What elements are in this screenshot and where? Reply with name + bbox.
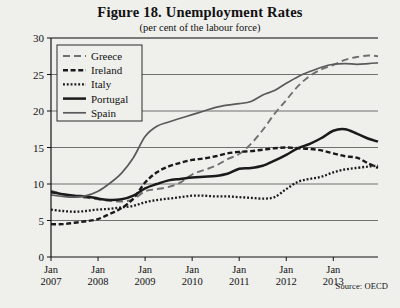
unemployment-rates-line-chart: 051015202530 Jan2007Jan2008Jan2009Jan201… (0, 0, 400, 308)
legend-label-spain: Spain (91, 107, 117, 119)
x-tick-label: 2010 (182, 276, 203, 287)
legend-label-portugal: Portugal (91, 93, 128, 105)
figure-container: Figure 18. Unemployment Rates (per cent … (0, 0, 400, 308)
chart-legend: GreeceIrelandItalyPortugalSpain (57, 45, 142, 121)
x-tick-label: 2009 (135, 276, 156, 287)
x-tick-label: Jan (279, 264, 294, 275)
y-tick-label: 15 (33, 142, 45, 154)
legend-label-ireland: Ireland (91, 64, 123, 76)
x-tick-label: Jan (138, 264, 153, 275)
y-tick-label: 10 (33, 178, 45, 190)
legend-label-italy: Italy (91, 78, 112, 90)
x-tick-label: 2008 (88, 276, 109, 287)
x-tick-label: Jan (91, 264, 106, 275)
x-tick-label: Jan (44, 264, 59, 275)
y-tick-label: 20 (33, 105, 45, 117)
x-tick-label: Jan (232, 264, 247, 275)
x-tick-label: Jan (185, 264, 200, 275)
figure-title: Figure 18. Unemployment Rates (0, 4, 400, 21)
series-line-italy (51, 166, 378, 212)
figure-subtitle: (per cent of the labour force) (0, 22, 400, 33)
x-tick-label: 2012 (276, 276, 297, 287)
x-tick-label: Jan (326, 264, 341, 275)
y-tick-label: 0 (39, 251, 45, 263)
legend-label-greece: Greece (91, 50, 122, 62)
y-tick-label: 5 (39, 215, 45, 227)
y-tick-label: 30 (33, 32, 45, 44)
x-axis-tick-labels: Jan2007Jan2008Jan2009Jan2010Jan2011Jan20… (41, 257, 344, 287)
x-tick-label: 2007 (41, 276, 62, 287)
series-line-ireland (51, 148, 378, 225)
source-note: Source: OECD (336, 281, 388, 291)
y-axis-tick-labels: 051015202530 (33, 32, 51, 263)
x-tick-label: 2011 (229, 276, 250, 287)
y-tick-label: 25 (33, 69, 45, 81)
